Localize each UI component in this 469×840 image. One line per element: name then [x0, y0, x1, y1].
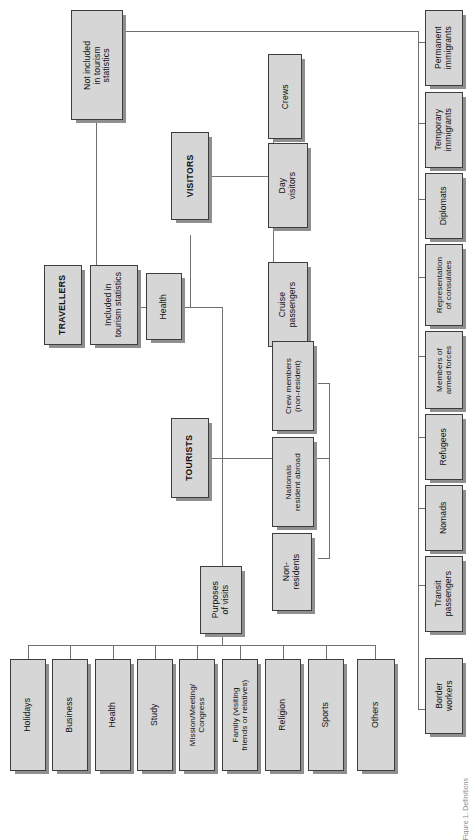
node-label: Crews: [280, 84, 290, 109]
connector-visitors-out: [212, 176, 274, 177]
connector-purpose-drop-7: [283, 645, 284, 659]
node-label: TOURISTS: [185, 435, 195, 481]
node-label: Purposes of visits: [211, 581, 230, 618]
connector-visitors-drop: [190, 235, 191, 307]
node-label: Crew members (non-resident): [284, 358, 302, 414]
node-included-in-tourism-statistics[interactable]: Included in tourism statistics: [90, 265, 138, 345]
node-purpose-holidays[interactable]: Holidays: [10, 659, 46, 771]
node-visitors[interactable]: VISITORS: [171, 132, 209, 220]
connector-tourists-branchbus: [329, 383, 330, 559]
node-label: Health: [108, 702, 118, 727]
node-health-branch[interactable]: Health: [146, 273, 182, 340]
node-label: Nomads: [439, 502, 449, 535]
node-purpose-family[interactable]: Family (visiting friends or relatives): [222, 659, 258, 771]
node-label: Members of armed forces: [435, 346, 453, 394]
node-purpose-sports[interactable]: Sports: [308, 659, 344, 771]
connector-purpose-drop-1: [28, 645, 29, 659]
node-label: Representation of consulates: [435, 257, 453, 313]
node-tourists[interactable]: TOURISTS: [171, 418, 209, 498]
node-purpose-others[interactable]: Others: [357, 659, 395, 771]
node-label: Not included in tourism statistics: [83, 41, 112, 90]
connector-crewmembers-stub: [318, 383, 330, 384]
connector-purpose-drop-9: [375, 645, 376, 659]
node-label: Nationals resident abroad: [284, 453, 302, 511]
node-purpose-study[interactable]: Study: [137, 659, 173, 771]
connector-nationals-stub: [318, 458, 330, 459]
node-label: VISITORS: [185, 155, 195, 198]
figure-caption: Figure 1. Definitions: [462, 778, 469, 840]
connector-purposes-bus: [28, 645, 375, 646]
node-crews[interactable]: Crews: [268, 54, 302, 139]
node-category-transit-passengers[interactable]: Transit passengers: [425, 556, 463, 632]
node-purposes-of-visits[interactable]: Purposes of visits: [200, 566, 242, 634]
connector-purpose-drop-2: [70, 645, 71, 659]
connector-purpose-drop-8: [326, 645, 327, 659]
connector-purpose-drop-6: [240, 645, 241, 659]
connector-purpose-drop-3: [113, 645, 114, 659]
node-nationals-resident-abroad[interactable]: Nationals resident abroad: [272, 437, 314, 527]
node-crew-members-non-resident[interactable]: Crew members (non-resident): [272, 341, 314, 431]
connector-rightcolumn-bus: [418, 31, 419, 709]
node-purpose-mission-meeting-congress[interactable]: Mission/Meeting/ Congress: [179, 659, 215, 771]
node-label: Diplomats: [439, 186, 449, 225]
node-label: Refugees: [439, 428, 449, 466]
node-day-visitors[interactable]: Day visitors: [268, 143, 308, 228]
connector-purpose-drop-5: [197, 645, 198, 659]
node-category-members-of-armed-forces[interactable]: Members of armed forces: [425, 331, 463, 409]
connector-purpose-drop-4: [155, 645, 156, 659]
node-label: Included in tourism statistics: [104, 272, 123, 337]
node-category-border-workers[interactable]: Border workers: [425, 658, 463, 734]
node-category-diplomats[interactable]: Diplomats: [425, 173, 463, 239]
node-label: Mission/Meeting/ Congress: [188, 684, 206, 746]
node-label: Day visitors: [278, 172, 297, 200]
node-label: Non- residents: [282, 554, 301, 590]
node-cruise-passengers[interactable]: Cruise passengers: [268, 262, 308, 347]
node-purpose-business[interactable]: Business: [52, 659, 88, 771]
node-label: Business: [65, 697, 75, 733]
node-category-permanent-immigrants[interactable]: Permanent immigrants: [425, 10, 463, 86]
node-non-residents[interactable]: Non- residents: [272, 533, 312, 611]
node-purpose-health[interactable]: Health: [95, 659, 131, 771]
node-label: Health: [159, 294, 169, 319]
node-label: Permanent immigrants: [434, 26, 453, 69]
node-category-temporary-immigrants[interactable]: Temporary immigrants: [425, 92, 463, 168]
node-label: Others: [371, 702, 381, 728]
node-label: Temporary immigrants: [434, 108, 453, 151]
node-label: Family (visiting friends or relatives): [231, 680, 249, 751]
node-category-nomads[interactable]: Nomads: [425, 485, 463, 551]
connector-tourists-drop: [222, 307, 223, 482]
node-label: Border workers: [434, 681, 453, 712]
connector-notincluded-bus: [118, 31, 419, 32]
node-label: Study: [150, 704, 160, 726]
node-label: TRAVELLERS: [58, 275, 68, 335]
node-not-included-in-tourism-statistics[interactable]: Not included in tourism statistics: [71, 10, 123, 120]
node-travellers[interactable]: TRAVELLERS: [44, 265, 82, 345]
connector-purposes-drop: [222, 482, 223, 570]
connector-nonresidents-stub: [318, 558, 330, 559]
node-label: Cruise passengers: [278, 282, 297, 327]
node-label: Transit passengers: [434, 571, 453, 616]
node-label: Sports: [321, 702, 331, 727]
node-label: Holidays: [23, 698, 33, 732]
node-label: Religion: [278, 699, 288, 731]
node-purpose-religion[interactable]: Religion: [265, 659, 301, 771]
node-category-representation-of-consulates[interactable]: Representation of consulates: [425, 244, 463, 326]
node-category-refugees[interactable]: Refugees: [425, 414, 463, 480]
